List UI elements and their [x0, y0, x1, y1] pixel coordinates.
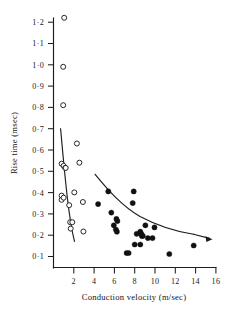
x-tick-label: 10: [151, 277, 160, 286]
y-tick-label: 0·9: [32, 82, 44, 91]
data-point-open: [62, 15, 67, 20]
y-tick-label: 0·6: [32, 146, 44, 155]
data-point-open: [68, 226, 73, 231]
y-tick-label: 0·2: [32, 231, 44, 240]
data-point-filled: [132, 242, 137, 247]
data-point-filled: [152, 225, 157, 230]
data-point-open: [80, 200, 85, 205]
data-point-filled: [191, 243, 196, 248]
data-point-open: [70, 220, 75, 225]
y-tick-label: 1·2: [32, 18, 44, 27]
y-tick-label: 0·5: [32, 167, 44, 176]
x-tick-label: 14: [191, 277, 200, 286]
x-axis-title: Conduction velocity (m/sec): [82, 292, 187, 302]
scatter-chart: 1·2 1·1 1·0 0·9 0·8 0·7 0·6 0·5 0·4 0·3 …: [0, 0, 230, 314]
y-tick-label: 0·1: [32, 252, 44, 261]
y-tick-label: 0·3: [32, 210, 44, 219]
x-tick-label: 8: [133, 277, 137, 286]
y-axis-title: Rise time (msec): [9, 112, 19, 174]
data-point-open: [67, 203, 72, 208]
data-point-open: [74, 141, 79, 146]
data-point-filled: [106, 189, 111, 194]
data-point-filled: [167, 251, 172, 256]
y-tick-label: 0·7: [32, 125, 44, 134]
data-point-filled: [134, 231, 139, 236]
y-axis-ticks: [48, 22, 54, 256]
y-tick-label: 0·8: [32, 103, 44, 112]
data-point-open: [63, 165, 68, 170]
data-point-open: [61, 195, 66, 200]
data-point-open: [61, 103, 66, 108]
y-tick-label: 0·4: [32, 189, 44, 198]
y-tick-label: 1·1: [32, 39, 44, 48]
filled-circle-series: [96, 189, 197, 257]
data-point-filled: [126, 250, 131, 255]
data-point-filled: [143, 223, 148, 228]
data-point-filled: [130, 201, 135, 206]
data-point-filled: [115, 219, 120, 224]
data-point-filled: [150, 236, 155, 241]
x-axis-ticks: [74, 268, 216, 274]
x-tick-label: 2: [72, 277, 76, 286]
data-point-filled: [140, 233, 145, 238]
data-point-filled: [138, 242, 143, 247]
data-point-filled: [131, 189, 136, 194]
x-tick-label: 16: [212, 277, 221, 286]
y-axis-tick-labels: 1·2 1·1 1·0 0·9 0·8 0·7 0·6 0·5 0·4 0·3 …: [32, 18, 44, 261]
data-point-open: [72, 190, 77, 195]
x-tick-label: 12: [171, 277, 180, 286]
x-axis-tick-labels: 2 4 6 8 10 12 14 16: [72, 277, 221, 286]
arrow-head-icon: [206, 236, 213, 242]
data-point-filled: [96, 202, 101, 207]
x-tick-label: 6: [112, 277, 116, 286]
data-point-filled: [109, 210, 114, 215]
data-point-open: [81, 229, 86, 234]
x-tick-label: 4: [92, 277, 96, 286]
data-point-open: [61, 64, 66, 69]
data-point-filled: [114, 229, 119, 234]
y-tick-label: 1·0: [32, 61, 44, 70]
plot-area: 1·2 1·1 1·0 0·9 0·8 0·7 0·6 0·5 0·4 0·3 …: [0, 0, 230, 314]
open-circle-series: [59, 15, 86, 234]
data-point-open: [77, 160, 82, 165]
